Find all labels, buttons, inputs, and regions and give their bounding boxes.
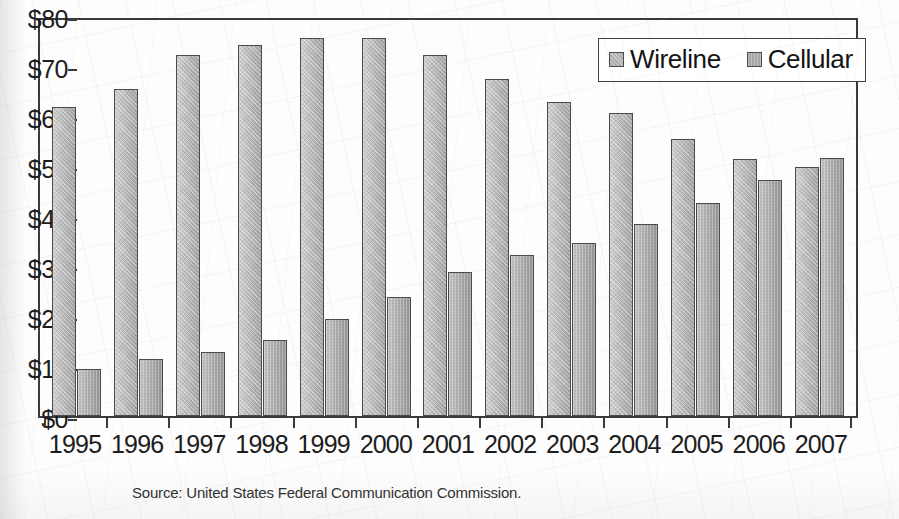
bar-wireline-2002 — [485, 79, 509, 417]
chart-legend: Wireline Cellular — [598, 38, 866, 82]
bar-group — [479, 20, 541, 416]
bar-cellular-2002 — [510, 255, 534, 417]
x-axis-tick-label: 1996 — [111, 430, 163, 470]
bar-cellular-1998 — [263, 340, 287, 417]
bar-cellular-1997 — [201, 352, 225, 417]
x-axis-tick: 1998 — [230, 424, 292, 464]
bar-cellular-2007 — [820, 158, 844, 417]
bar-cellular-2003 — [572, 243, 596, 416]
x-tick-mark-end — [850, 418, 852, 428]
x-axis-tick-label: 2002 — [484, 430, 536, 470]
x-axis-tick-label: 2006 — [733, 430, 785, 470]
bar-cellular-1996 — [139, 359, 163, 416]
y-axis-tick-mark — [68, 419, 77, 421]
bar-group — [355, 20, 417, 416]
bar-wireline-1998 — [238, 45, 262, 417]
x-axis-tick-label: 2005 — [670, 430, 722, 470]
bar-cellular-2000 — [387, 297, 411, 417]
x-axis-tick-label: 1995 — [49, 430, 101, 470]
bar-wireline-1999 — [300, 38, 324, 416]
legend-label-cellular: Cellular — [768, 44, 853, 75]
bar-wireline-2005 — [671, 139, 695, 416]
legend-swatch-icon-cellular — [747, 52, 762, 67]
x-axis-tick-mark — [293, 418, 295, 428]
bar-group — [108, 20, 170, 416]
bar-group — [232, 20, 294, 416]
bar-wireline-2000 — [362, 38, 386, 416]
bar-wireline-1997 — [176, 55, 200, 417]
x-axis-tick: 1995 — [44, 424, 106, 464]
legend-swatch-icon-wireline — [609, 52, 624, 67]
bar-cellular-2005 — [696, 203, 720, 416]
bar-wireline-1996 — [114, 89, 138, 417]
bar-cellular-2006 — [758, 180, 782, 417]
x-axis-tick-mark — [728, 418, 730, 428]
bar-cellular-2001 — [448, 272, 472, 417]
x-axis-tick-mark — [479, 418, 481, 428]
legend-label-wireline: Wireline — [630, 44, 721, 75]
bar-group — [46, 20, 108, 416]
x-axis-tick-mark — [790, 418, 792, 428]
x-axis-tick: 1999 — [293, 424, 355, 464]
x-axis-tick-mark — [106, 418, 108, 428]
bar-cellular-1999 — [325, 319, 349, 416]
x-axis-tick: 2001 — [417, 424, 479, 464]
x-axis-tick: 1997 — [168, 424, 230, 464]
x-axis-tick: 2007 — [790, 424, 852, 464]
x-axis-tick-label: 1997 — [173, 430, 225, 470]
x-axis-tick-mark — [666, 418, 668, 428]
bar-wireline-2001 — [423, 55, 447, 417]
x-axis-tick-label: 2004 — [608, 430, 660, 470]
x-axis-tick-label: 1998 — [235, 430, 287, 470]
x-axis-tick-label: 2003 — [546, 430, 598, 470]
x-axis-tick-mark — [355, 418, 357, 428]
x-axis: 1995199619971998199920002001200220032004… — [38, 424, 858, 464]
x-axis-tick-label: 2001 — [422, 430, 474, 470]
bar-wireline-1995 — [52, 107, 76, 417]
bar-group — [170, 20, 232, 416]
bar-cellular-2004 — [634, 224, 658, 416]
x-axis-tick: 1996 — [106, 424, 168, 464]
x-axis-tick-label: 2000 — [360, 430, 412, 470]
x-axis-tick-mark — [603, 418, 605, 428]
bar-group — [293, 20, 355, 416]
x-axis-tick: 2002 — [479, 424, 541, 464]
x-axis-tick: 2006 — [728, 424, 790, 464]
x-axis-tick: 2000 — [355, 424, 417, 464]
bar-wireline-2003 — [547, 102, 571, 416]
x-axis-tick-mark — [168, 418, 170, 428]
x-axis-tick-mark — [230, 418, 232, 428]
x-axis-tick-mark — [541, 418, 543, 428]
x-axis-tick-label: 2007 — [795, 430, 847, 470]
legend-entry-cellular: Cellular — [747, 44, 853, 75]
bar-group — [541, 20, 603, 416]
bar-wireline-2007 — [795, 167, 819, 417]
bar-wireline-2004 — [609, 113, 633, 416]
bar-group — [417, 20, 479, 416]
x-axis-tick: 2003 — [541, 424, 603, 464]
x-axis-tick-mark — [417, 418, 419, 428]
x-axis-tick: 2004 — [603, 424, 665, 464]
x-axis-tick: 2005 — [666, 424, 728, 464]
bar-cellular-1995 — [77, 369, 101, 416]
bar-wireline-2006 — [733, 159, 757, 416]
source-caption: Source: United States Federal Communicat… — [132, 484, 521, 501]
bar-chart: $0$10$20$30$40$50$60$70$80 1995199619971… — [0, 0, 899, 519]
legend-entry-wireline: Wireline — [609, 44, 721, 75]
x-axis-tick-mark — [44, 418, 46, 428]
chart-page: $0$10$20$30$40$50$60$70$80 1995199619971… — [0, 0, 899, 519]
x-axis-tick-label: 1999 — [297, 430, 349, 470]
